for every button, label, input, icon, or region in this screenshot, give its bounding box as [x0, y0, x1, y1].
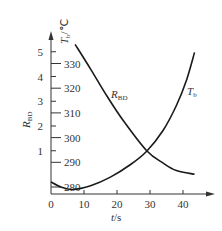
x-tick-label: 20: [112, 198, 124, 210]
rbd-curve: [75, 44, 194, 174]
left-tick-label: 1: [38, 145, 44, 157]
right-tick-label: 300: [64, 132, 81, 144]
x-tick-label: 40: [178, 198, 190, 210]
left-axis-label: RBD: [20, 112, 34, 129]
x-tick-label: 30: [145, 198, 157, 210]
right-ticks: 280290300310320330: [51, 58, 81, 194]
right-tick-label: 280: [64, 181, 81, 193]
right-tick-label: 330: [64, 58, 81, 70]
tb-curve-label: Tb: [187, 85, 197, 99]
right-tick-label: 320: [64, 82, 81, 94]
left-tick-label: 4: [38, 71, 44, 83]
x-tick-label: 0: [48, 198, 54, 210]
rbd-curve-label: RBD: [110, 88, 127, 102]
left-tick-label: 3: [38, 95, 44, 107]
chart-canvas: 010203040 12345 280290300310320330 t/s R…: [0, 0, 222, 231]
y-axis-arrow: [49, 31, 54, 40]
right-tick-label: 290: [64, 156, 81, 168]
x-tick-label: 10: [79, 198, 91, 210]
x-axis-label: t/s: [111, 211, 121, 223]
x-axis-arrow: [206, 192, 215, 197]
right-axis-label: Tb/℃: [58, 19, 72, 44]
left-tick-label: 5: [38, 46, 44, 58]
x-ticks: 010203040: [48, 190, 189, 210]
right-tick-label: 310: [64, 107, 81, 119]
left-ticks: 12345: [38, 46, 57, 157]
left-tick-label: 2: [38, 120, 44, 132]
